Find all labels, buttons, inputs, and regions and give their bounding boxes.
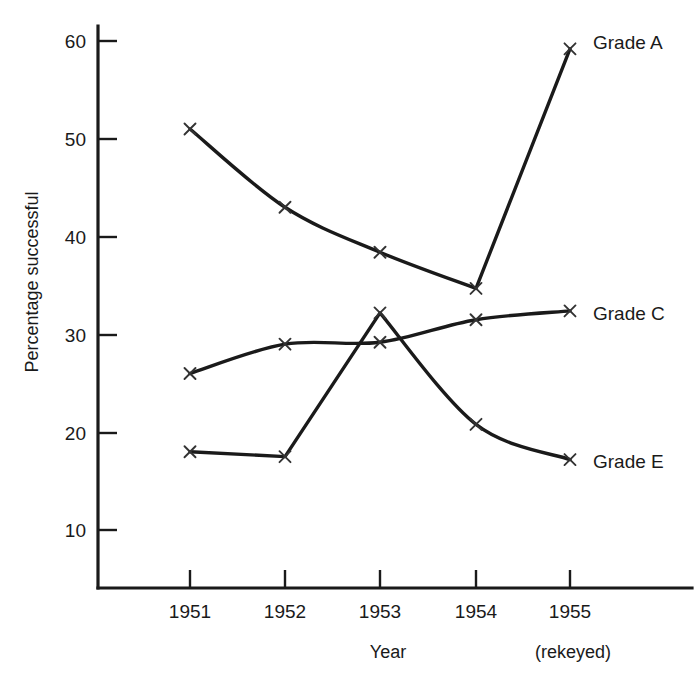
y-tick-label-30: 30 <box>65 325 86 346</box>
y-tick-label-20: 20 <box>65 423 86 444</box>
x-tick-label-1953: 1953 <box>359 601 401 622</box>
grade-a-point <box>280 202 291 213</box>
series-markers-grade-a <box>185 43 576 294</box>
x-axis-note: (rekeyed) <box>535 642 611 662</box>
series-label-grade-e: Grade E <box>593 451 664 472</box>
y-tick-label-10: 10 <box>65 520 86 541</box>
y-tick-label-60: 60 <box>65 31 86 52</box>
grade-a-point <box>185 124 196 135</box>
y-tick-label-50: 50 <box>65 129 86 150</box>
x-axis-title: Year <box>370 642 406 662</box>
chart-canvas: 60 50 40 30 20 10 1951 1952 1953 1954 19… <box>0 0 700 677</box>
series-markers-grade-e <box>185 307 576 465</box>
x-tick-label-1952: 1952 <box>264 601 306 622</box>
series-label-grade-a: Grade A <box>593 32 663 53</box>
x-tick-marks <box>190 570 570 588</box>
y-tick-label-40: 40 <box>65 227 86 248</box>
x-tick-label-1951: 1951 <box>169 601 211 622</box>
y-tick-marks <box>98 41 117 530</box>
grade-e-point <box>471 419 482 430</box>
x-tick-label-1954: 1954 <box>455 601 498 622</box>
y-axis-title: Percentage successful <box>22 191 42 372</box>
series-line-grade-e <box>190 313 570 460</box>
grade-e-point <box>375 307 386 318</box>
line-chart: 60 50 40 30 20 10 1951 1952 1953 1954 19… <box>0 0 700 677</box>
series-label-grade-c: Grade C <box>593 303 665 324</box>
x-tick-label-1955: 1955 <box>549 601 591 622</box>
